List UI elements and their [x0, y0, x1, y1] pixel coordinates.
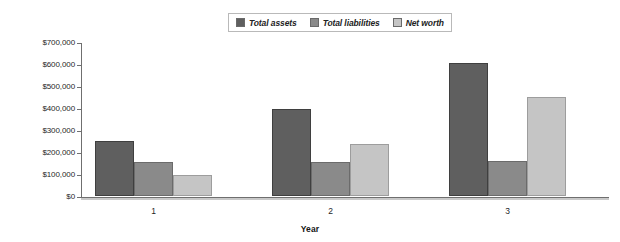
y-axis-line	[81, 43, 82, 198]
legend-swatch-total-liabilities	[310, 18, 319, 27]
bar-total-liabilities-year-2[interactable]	[311, 162, 350, 196]
y-axis-tick-label: $200,000	[42, 148, 75, 157]
legend-item-total-liabilities: Total liabilities	[310, 18, 380, 28]
legend-label-net-worth: Net worth	[406, 18, 444, 28]
y-axis-tick	[77, 109, 81, 110]
y-axis-tick-label: $300,000	[42, 126, 75, 135]
y-axis-labels: $0$100,000$200,000$300,000$400,000$500,0…	[5, 43, 75, 198]
legend-label-total-liabilities: Total liabilities	[323, 18, 380, 28]
y-axis-tick	[77, 131, 81, 132]
legend-swatch-total-assets	[236, 18, 245, 27]
x-axis-tick-label: 2	[301, 206, 361, 216]
chart-legend: Total assets Total liabilities Net worth	[228, 13, 452, 32]
bar-total-liabilities-year-3[interactable]	[488, 161, 527, 196]
y-axis-tick	[77, 65, 81, 66]
bar-net-worth-year-2[interactable]	[350, 144, 389, 196]
y-axis-tick-label: $100,000	[42, 170, 75, 179]
y-axis-tick	[77, 197, 81, 198]
bar-group	[272, 42, 389, 196]
bar-total-assets-year-2[interactable]	[272, 109, 311, 196]
y-axis-tick	[77, 87, 81, 88]
y-axis-tick	[77, 175, 81, 176]
legend-swatch-net-worth	[393, 18, 402, 27]
y-axis-tick-label: $500,000	[42, 82, 75, 91]
bar-chart: Total assets Total liabilities Net worth…	[0, 0, 620, 242]
y-axis-tick-label: $400,000	[42, 104, 75, 113]
legend-label-total-assets: Total assets	[249, 18, 297, 28]
y-axis-tick-label: $700,000	[42, 38, 75, 47]
bar-group	[449, 42, 566, 196]
legend-item-total-assets: Total assets	[236, 18, 297, 28]
bar-total-liabilities-year-1[interactable]	[134, 162, 173, 196]
x-axis-tick-label: 1	[124, 206, 184, 216]
x-axis-baseline-shadow	[81, 198, 609, 200]
legend-item-net-worth: Net worth	[393, 18, 444, 28]
bar-net-worth-year-1[interactable]	[173, 175, 212, 196]
bar-net-worth-year-3[interactable]	[527, 97, 566, 196]
y-axis-tick-label: $600,000	[42, 60, 75, 69]
y-axis-tick	[77, 43, 81, 44]
bar-total-assets-year-1[interactable]	[95, 141, 134, 196]
x-axis-tick-label: 3	[478, 206, 538, 216]
y-axis-tick	[77, 153, 81, 154]
y-axis-tick-label: $0	[66, 192, 75, 201]
bar-group	[95, 42, 212, 196]
bar-total-assets-year-3[interactable]	[449, 63, 488, 196]
plot-area	[81, 43, 609, 197]
x-axis-title: Year	[0, 224, 620, 234]
